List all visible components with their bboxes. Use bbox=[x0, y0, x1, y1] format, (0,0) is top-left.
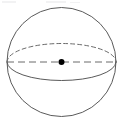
center-point-dot bbox=[59, 59, 65, 65]
sphere-diagram-figure bbox=[0, 0, 122, 123]
sphere-drawing-canvas bbox=[0, 0, 122, 123]
